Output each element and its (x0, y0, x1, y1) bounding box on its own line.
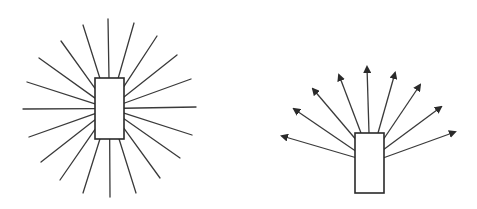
ray-line (124, 36, 157, 86)
arrow (367, 67, 369, 133)
ray-line (124, 113, 192, 135)
ray-line (118, 23, 134, 78)
ray-line (124, 107, 196, 108)
arrow (383, 85, 420, 140)
ray-line (29, 114, 95, 137)
source-rectangle (95, 78, 124, 139)
ray-line (83, 139, 100, 193)
arrow (383, 107, 441, 150)
ray-line (124, 55, 177, 97)
directional-figure (282, 67, 455, 193)
omnidirectional-figure (23, 19, 196, 197)
ray-line (119, 139, 136, 193)
ray-line (83, 25, 100, 78)
ray-line (39, 58, 95, 98)
arrow (282, 136, 357, 158)
ray-line (124, 119, 180, 158)
arrow (383, 132, 455, 158)
arrow (378, 73, 395, 133)
source-rectangle (355, 133, 384, 193)
radiation-diagram (0, 0, 477, 209)
ray-line (124, 79, 191, 103)
arrow (313, 89, 358, 142)
ray-line (27, 82, 95, 104)
ray-line (108, 19, 109, 78)
